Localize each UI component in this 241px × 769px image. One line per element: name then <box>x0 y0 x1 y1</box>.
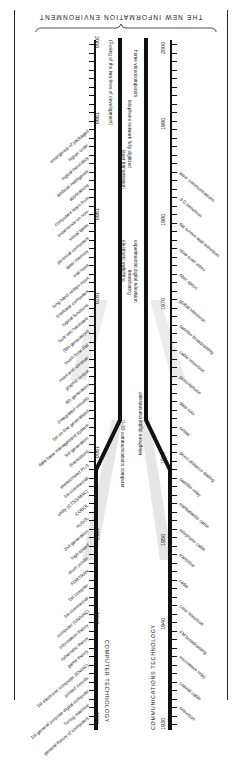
axis-tick <box>172 503 177 504</box>
central-item-network-digitized: telephone network fully digitized <box>127 100 132 168</box>
axis-tick <box>172 631 177 632</box>
axis-tick <box>172 240 177 241</box>
axis-tick <box>172 248 177 249</box>
axis-tick <box>172 486 177 487</box>
axis-tick <box>89 639 94 640</box>
central-item-d30: D-30 communications computer <box>120 420 125 488</box>
axis-tick <box>89 299 94 300</box>
axis-tick <box>89 248 94 249</box>
axis-tick <box>172 580 177 581</box>
axis-tick <box>89 384 94 385</box>
year-1940-left: 1940 <box>94 612 100 624</box>
axis-tick <box>172 70 177 71</box>
axis-tick <box>89 452 94 453</box>
axis-tick <box>172 155 177 156</box>
axis-tick <box>172 265 177 266</box>
axis-tick <box>172 554 177 555</box>
axis-tick <box>172 359 177 360</box>
axis-tick <box>172 121 177 122</box>
axis-tick <box>89 129 94 130</box>
axis-tick <box>172 384 177 385</box>
axis-tick <box>172 563 177 564</box>
axis-tick <box>172 682 177 683</box>
axis-tick <box>89 554 94 555</box>
axis-tick <box>172 622 177 623</box>
axis-tick <box>89 180 94 181</box>
axis-tick <box>89 214 94 215</box>
axis-tick <box>172 461 177 462</box>
axis-tick <box>89 291 94 292</box>
axis-tick <box>89 206 94 207</box>
central-item-timesharing: timesharing <box>127 270 132 295</box>
fusing-note: (Fusing of the two lines of development) <box>108 40 113 125</box>
axis-tick <box>89 427 94 428</box>
axis-tick <box>89 172 94 173</box>
year-1940-right: 1940 <box>160 618 166 630</box>
central-item-home-videocomputers: home videocomputers <box>133 50 138 97</box>
axis-tick <box>172 53 177 54</box>
axis-tick <box>172 274 177 275</box>
axis-tick <box>89 316 94 317</box>
year-2000-right: 2000 <box>160 42 166 54</box>
axis-tick <box>89 435 94 436</box>
axis-tick <box>172 614 177 615</box>
axis-tick <box>89 520 94 521</box>
axis-tick <box>89 682 94 683</box>
axis-tick <box>89 163 94 164</box>
axis-tick <box>89 197 94 198</box>
axis-tick <box>172 223 177 224</box>
communications-technology-title: COMMUNICATIONS TECHNOLOGY <box>150 624 156 730</box>
axis-tick <box>89 231 94 232</box>
axis-tick <box>172 648 177 649</box>
axis-tick <box>172 189 177 190</box>
axis-tick <box>172 699 177 700</box>
axis-tick <box>89 367 94 368</box>
axis-tick <box>172 197 177 198</box>
central-item-experimental-tv: experimental digital television <box>133 240 138 303</box>
axis-tick <box>89 376 94 377</box>
axis-tick <box>172 435 177 436</box>
axis-tick <box>172 588 177 589</box>
axis-tick <box>89 716 94 717</box>
axis-tick <box>172 376 177 377</box>
axis-tick <box>89 401 94 402</box>
axis-tick <box>172 690 177 691</box>
axis-tick <box>172 299 177 300</box>
axis-tick <box>89 724 94 725</box>
axis-tick <box>89 112 94 113</box>
axis-tick <box>89 529 94 530</box>
axis-tick <box>172 512 177 513</box>
axis-tick <box>89 223 94 224</box>
axis-tick <box>172 495 177 496</box>
axis-tick <box>172 469 177 470</box>
axis-tick <box>172 537 177 538</box>
axis-tick <box>89 631 94 632</box>
axis-tick <box>172 129 177 130</box>
axis-tick <box>89 121 94 122</box>
axis-tick <box>89 571 94 572</box>
axis-tick <box>172 316 177 317</box>
axis-tick <box>172 231 177 232</box>
axis-tick <box>172 172 177 173</box>
axis-tick <box>89 104 94 105</box>
year-1980-left: 1980 <box>94 208 100 220</box>
year-1950-left: 1950 <box>94 528 100 540</box>
axis-tick <box>89 580 94 581</box>
axis-tick <box>89 665 94 666</box>
axis-tick <box>89 461 94 462</box>
year-1960-left: 1960 <box>94 446 100 458</box>
axis-tick <box>89 189 94 190</box>
axis-tick <box>172 605 177 606</box>
axis-tick <box>172 342 177 343</box>
axis-tick <box>89 282 94 283</box>
central-item-telephone-digital: telephone digital transmission <box>138 392 143 455</box>
axis-tick <box>172 393 177 394</box>
axis-tick <box>172 656 177 657</box>
year-1950-right: 1950 <box>160 534 166 546</box>
axis-tick <box>172 673 177 674</box>
axis-tick <box>89 393 94 394</box>
axis-tick <box>89 546 94 547</box>
axis-tick <box>172 520 177 521</box>
axis-tick <box>89 257 94 258</box>
communications-axis <box>170 40 172 730</box>
